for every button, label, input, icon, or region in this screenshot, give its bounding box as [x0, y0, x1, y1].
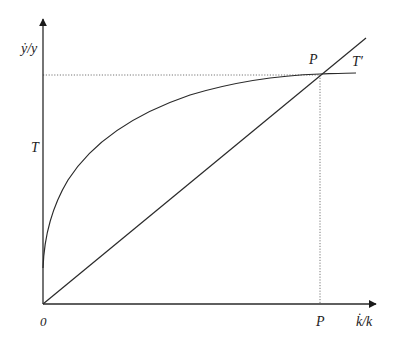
t-curve-label: T — [31, 140, 40, 155]
growth-diagram: ẏ/y k̇/k 0 T T′ P P — [0, 0, 399, 341]
t-prime-label: T′ — [352, 54, 364, 69]
y-axis-label: ẏ/y — [19, 41, 38, 56]
intersection-label: P — [308, 52, 318, 67]
t-prime-line — [43, 38, 366, 304]
x-intersection-label: P — [315, 314, 325, 329]
origin-label: 0 — [40, 314, 47, 329]
x-axis-label: k̇/k — [356, 313, 373, 329]
t-curve — [43, 73, 356, 268]
